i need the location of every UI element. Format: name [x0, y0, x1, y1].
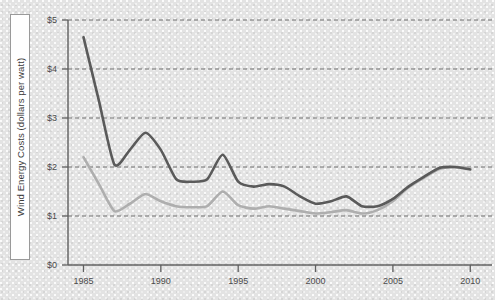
x-axis-tick-labels: 198519901995200020052010 [73, 276, 480, 286]
x-axis-tick-label: 2010 [460, 276, 480, 286]
wind-energy-cost-chart: $0$1$2$3$4$5 198519901995200020052010 Wi… [0, 0, 495, 300]
y-axis-tick-label: $5 [47, 15, 57, 25]
y-axis-label: Wind Energy Costs (dollars per watt) [15, 58, 26, 216]
x-axis-tick-label: 2005 [383, 276, 403, 286]
x-axis-tick-label: 2000 [306, 276, 326, 286]
data-series-group [83, 37, 470, 213]
x-axis-tick-label: 1985 [73, 276, 93, 286]
y-axis-tick-labels: $0$1$2$3$4$5 [47, 15, 57, 270]
x-axis-tick-label: 1990 [151, 276, 171, 286]
y-axis-tick-label: $1 [47, 211, 57, 221]
y-axis-tick-label: $4 [47, 64, 57, 74]
y-axis-tick-label: $2 [47, 162, 57, 172]
x-axis-tick-label: 1995 [228, 276, 248, 286]
y-axis-tick-label: $0 [47, 260, 57, 270]
chart-plot-area: $0$1$2$3$4$5 198519901995200020052010 [0, 0, 495, 300]
axes-group [68, 20, 492, 265]
gridlines-group [68, 20, 492, 216]
y-axis-tick-label: $3 [47, 113, 57, 123]
y-axis-label-box: Wind Energy Costs (dollars per watt) [10, 14, 30, 260]
series-line-upper-cost-line [83, 37, 470, 207]
tick-marks-group [62, 20, 470, 272]
